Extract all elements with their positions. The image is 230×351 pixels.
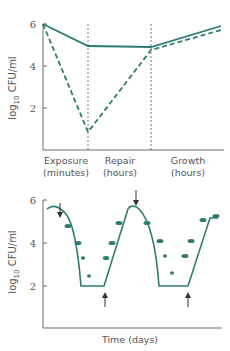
phase-unit-growth: (hours) (171, 167, 205, 178)
data-point (75, 241, 82, 245)
figure: 6 4 2 log10 CFU/ml Exposure (minutes) Re… (0, 0, 230, 351)
data-point (188, 239, 195, 243)
phase-label-repair: Repair (105, 155, 136, 166)
data-point (163, 254, 167, 258)
data-point (200, 218, 207, 222)
bottom-ytick-label-6: 6 (30, 195, 36, 206)
top-chart: 6 4 2 log10 CFU/ml Exposure (minutes) Re… (7, 19, 224, 178)
top-ytick-label-4: 4 (30, 61, 36, 72)
bottom-ytick-label-4: 4 (30, 238, 36, 249)
data-point (109, 241, 116, 245)
phase-label-exposure: Exposure (44, 155, 88, 166)
top-ylabel: log10 CFU/ml (7, 56, 21, 119)
bottom-ylabel: log10 CFU/ml (7, 230, 21, 293)
data-point (170, 271, 174, 275)
data-point (87, 274, 91, 278)
arrow-up-icon (102, 292, 108, 307)
data-point (116, 221, 123, 225)
top-ytick-label-2: 2 (30, 103, 36, 114)
top-series-dashed (43, 24, 221, 132)
bottom-chart: 6 4 2 log10 CFU/ml (7, 190, 222, 345)
data-point (144, 221, 151, 225)
data-point (65, 224, 72, 228)
data-point (213, 214, 220, 218)
arrow-up-icon (185, 292, 191, 307)
arrow-down-icon (133, 190, 139, 206)
data-point (157, 239, 164, 243)
top-series-solid (43, 24, 221, 47)
data-point (182, 254, 189, 258)
bottom-ytick-label-2: 2 (30, 281, 36, 292)
bottom-series-curve (47, 206, 218, 286)
bottom-series-points (65, 214, 220, 278)
data-point (103, 256, 109, 260)
phase-label-growth: Growth (171, 155, 205, 166)
phase-unit-repair: (hours) (103, 167, 137, 178)
phase-unit-exposure: (minutes) (43, 167, 89, 178)
data-point (81, 256, 85, 260)
top-ytick-label-6: 6 (30, 19, 36, 30)
bottom-xlabel: Time (days) (101, 334, 158, 345)
